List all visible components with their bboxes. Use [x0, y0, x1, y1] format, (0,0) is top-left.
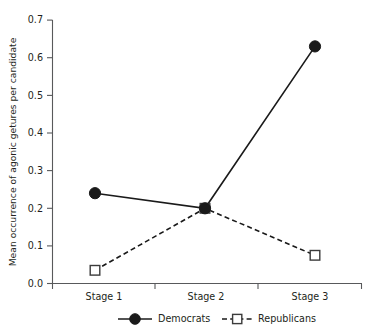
- series-line-democrats: [95, 46, 315, 208]
- legend-marker-democrats: [130, 314, 141, 325]
- data-point-democrats-stage-1: [89, 188, 100, 199]
- legend-marker-republicans: [233, 314, 242, 323]
- legend-label-democrats: Democrats: [158, 313, 210, 324]
- x-category-label-stage-2: Stage 2: [188, 291, 225, 302]
- y-axis-title: Mean occurrence of agonic getures per ca…: [7, 37, 18, 266]
- chart-legend: Democrats Republicans: [118, 313, 316, 324]
- legend-item-democrats: Democrats: [118, 313, 210, 324]
- x-category-label-stage-3: Stage 3: [292, 291, 329, 302]
- legend-label-republicans: Republicans: [258, 313, 316, 324]
- line-chart: 0.0 0.1 0.2 0.3 0.4 0.5 0.6 0.7 Stage 1 …: [0, 0, 373, 331]
- y-tick-label-7: 0.7: [28, 14, 43, 25]
- chart-figure: 0.0 0.1 0.2 0.3 0.4 0.5 0.6 0.7 Stage 1 …: [0, 0, 373, 331]
- y-tick-label-5: 0.5: [28, 90, 43, 101]
- data-point-democrats-stage-3: [309, 41, 320, 52]
- series-line-republicans: [95, 208, 315, 270]
- x-category-label-stage-1: Stage 1: [86, 291, 123, 302]
- y-tick-label-6: 0.6: [28, 52, 43, 63]
- data-point-republicans-stage-1: [90, 266, 100, 276]
- legend-item-republicans: Republicans: [222, 313, 316, 324]
- y-tick-label-3: 0.3: [28, 165, 43, 176]
- y-tick-label-2: 0.2: [28, 203, 43, 214]
- data-point-democrats-stage-2: [199, 203, 210, 214]
- data-point-republicans-stage-3: [310, 251, 320, 261]
- y-tick-label-0: 0.0: [28, 278, 43, 289]
- y-tick-label-4: 0.4: [28, 127, 43, 138]
- y-tick-label-1: 0.1: [28, 240, 43, 251]
